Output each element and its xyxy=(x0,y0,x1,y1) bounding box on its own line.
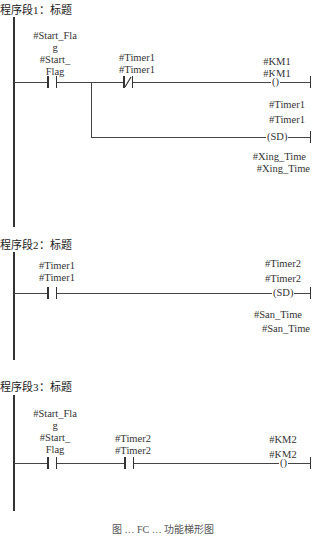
sd-timer1-time-param: #Xing_Time #Xing_Time xyxy=(240,151,310,175)
right-rail-cap xyxy=(310,76,311,88)
label-line: #Start_Fla xyxy=(20,30,90,42)
contact-timer1-label: #Timer1 #Timer1 xyxy=(112,52,162,76)
label-line: #Timer1 xyxy=(32,272,82,284)
label-line: #Xing_Time xyxy=(240,151,310,163)
label-line: #Start_Fla xyxy=(20,408,90,420)
right-rail-cap xyxy=(310,287,311,299)
sd-timer2-label: #Timer2 #Timer2 xyxy=(258,258,308,285)
no-contact-start-flag[interactable] xyxy=(47,457,57,469)
label-line: #Xing_Time xyxy=(240,163,310,175)
label-line: #San_Time xyxy=(240,309,310,321)
right-rail-cap xyxy=(310,131,311,143)
label-line: #Timer2 xyxy=(108,445,158,457)
no-contact-timer1[interactable] xyxy=(47,287,57,299)
sd-coil-timer2[interactable]: (SD) xyxy=(272,287,294,299)
label-line: #San_Time xyxy=(240,323,310,335)
left-power-rail xyxy=(13,395,15,511)
left-power-rail xyxy=(13,252,15,360)
label-line: #Timer2 xyxy=(108,433,158,445)
contact-timer1-label: #Timer1 #Timer1 xyxy=(32,260,82,284)
figure-caption: 图 … FC … 功能梯形图 xyxy=(112,521,214,536)
label-line: #Timer2 xyxy=(258,273,308,285)
label-line: #Timer1 xyxy=(262,99,312,111)
no-contact-start-flag[interactable] xyxy=(47,76,57,88)
label-line: #Timer2 xyxy=(258,258,308,270)
label-line: #Timer1 xyxy=(262,114,312,126)
label-line: Flag xyxy=(20,444,90,456)
contact-start-flag-label: #Start_Fla g #Start_ Flag xyxy=(20,30,90,78)
coil-km1[interactable]: () xyxy=(271,76,280,88)
rung-line xyxy=(14,293,310,294)
left-power-rail xyxy=(13,17,15,227)
network-1-title: 程序段1：标题 xyxy=(0,1,72,17)
label-line: #Timer1 xyxy=(112,64,162,76)
contact-start-flag-label: #Start_Fla g #Start_ Flag xyxy=(20,408,90,456)
network-3-title: 程序段3：标题 xyxy=(0,378,72,394)
label-line: #Timer1 xyxy=(112,52,162,64)
sd-timer2-time-param: #San_Time #San_Time xyxy=(240,309,310,335)
label-line: #KM2 xyxy=(258,434,308,446)
network-2-title: 程序段2：标题 xyxy=(0,236,72,252)
sd-timer1-label: #Timer1 #Timer1 xyxy=(262,99,312,126)
rung-line xyxy=(14,463,310,464)
nc-contact-timer1[interactable] xyxy=(123,76,133,88)
label-line: #KM1 xyxy=(252,56,302,68)
coil-km2[interactable]: () xyxy=(279,457,288,469)
branch-line xyxy=(91,82,92,137)
rung-line xyxy=(14,82,310,83)
label-line: #Timer1 xyxy=(32,260,82,272)
no-contact-timer2[interactable] xyxy=(124,457,134,469)
nc-slash-icon xyxy=(123,76,133,88)
sd-coil-timer1[interactable]: (SD) xyxy=(266,131,288,143)
contact-timer2-label: #Timer2 #Timer2 xyxy=(108,433,158,457)
label-line: g xyxy=(20,420,90,432)
label-line: #Start_ xyxy=(20,54,90,66)
label-line: #Start_ xyxy=(20,432,90,444)
right-rail-cap xyxy=(310,457,311,469)
label-line: g xyxy=(20,42,90,54)
